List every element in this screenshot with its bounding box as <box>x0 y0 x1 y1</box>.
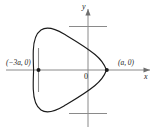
cardioid-figure: (−3a, 0) (a, 0) y x 0 <box>0 0 156 133</box>
plot-canvas <box>0 0 156 133</box>
label-cusp-point: (a, 0) <box>118 59 134 66</box>
label-y-axis: y <box>82 3 86 11</box>
label-origin: 0 <box>84 73 88 81</box>
point-marker-left <box>37 68 41 72</box>
y-axis-arrow-icon <box>85 9 90 16</box>
point-marker-cusp <box>105 68 109 72</box>
label-left-intercept: (−3a, 0) <box>6 59 31 66</box>
label-x-axis: x <box>144 73 148 81</box>
